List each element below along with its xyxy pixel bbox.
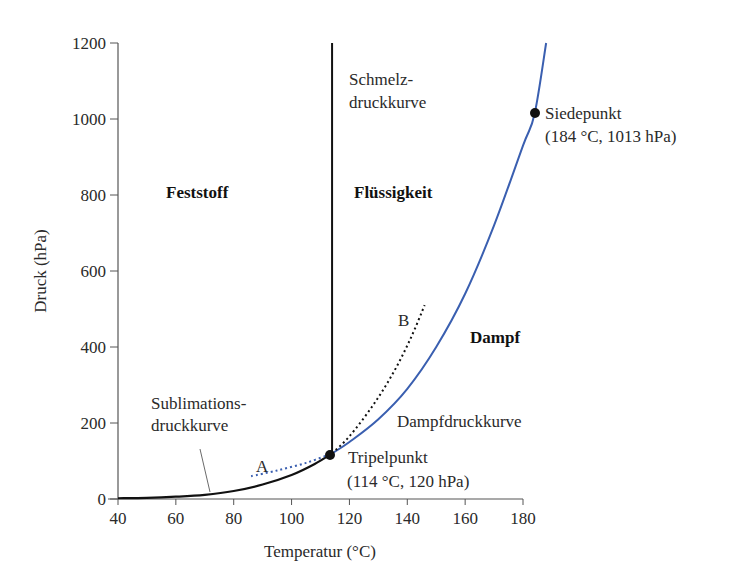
x-tick-label: 160: [452, 509, 478, 528]
phase-diagram: 4060801001201401601800200400600800100012…: [0, 0, 743, 587]
y-tick-label: 0: [98, 490, 107, 509]
sublimation-curve: [118, 453, 332, 498]
triple-point-marker: [325, 450, 335, 460]
region-label-liquid: Flüssigkeit: [354, 183, 433, 202]
y-tick-label: 400: [81, 338, 107, 357]
region-label-vapor: Dampf: [470, 328, 520, 347]
triple-point-label: Tripelpunkt: [348, 448, 428, 467]
curve-a-label: A: [256, 457, 269, 476]
y-axis-title: Druck (hPa): [31, 229, 50, 313]
x-tick-label: 140: [395, 509, 421, 528]
x-axis-title: Temperatur (°C): [264, 542, 376, 561]
curve-b-label: B: [398, 311, 409, 330]
sublimation-label-line1: Sublimations-: [151, 394, 247, 413]
melting-curve-label-line2: druckkurve: [349, 93, 426, 112]
sublimation-pointer-line: [200, 449, 210, 492]
boiling-point-marker: [530, 108, 540, 118]
x-tick-label: 80: [225, 509, 242, 528]
y-tick-label: 1200: [72, 34, 106, 53]
x-tick-label: 100: [279, 509, 305, 528]
y-tick-label: 1000: [72, 110, 106, 129]
region-label-solid: Feststoff: [166, 183, 229, 202]
x-tick-label: 120: [337, 509, 363, 528]
melting-curve-label-line1: Schmelz-: [349, 70, 414, 89]
sublimation-label-line2: druckkurve: [151, 416, 228, 435]
triple-point-values: (114 °C, 120 hPa): [347, 472, 469, 491]
y-tick-label: 200: [81, 414, 107, 433]
vapor-curve-label: Dampfdruckkurve: [397, 412, 522, 431]
y-tick-label: 800: [81, 186, 107, 205]
boiling-point-label: Siedepunkt: [545, 104, 622, 123]
y-tick-label: 600: [81, 262, 107, 281]
metastable-curve-b: [332, 305, 425, 453]
x-tick-label: 60: [167, 509, 184, 528]
x-tick-label: 180: [510, 509, 536, 528]
axis-ticks: 4060801001201401601800200400600800100012…: [72, 34, 536, 528]
boiling-point-values: (184 °C, 1013 hPa): [545, 127, 676, 146]
x-tick-label: 40: [110, 509, 127, 528]
